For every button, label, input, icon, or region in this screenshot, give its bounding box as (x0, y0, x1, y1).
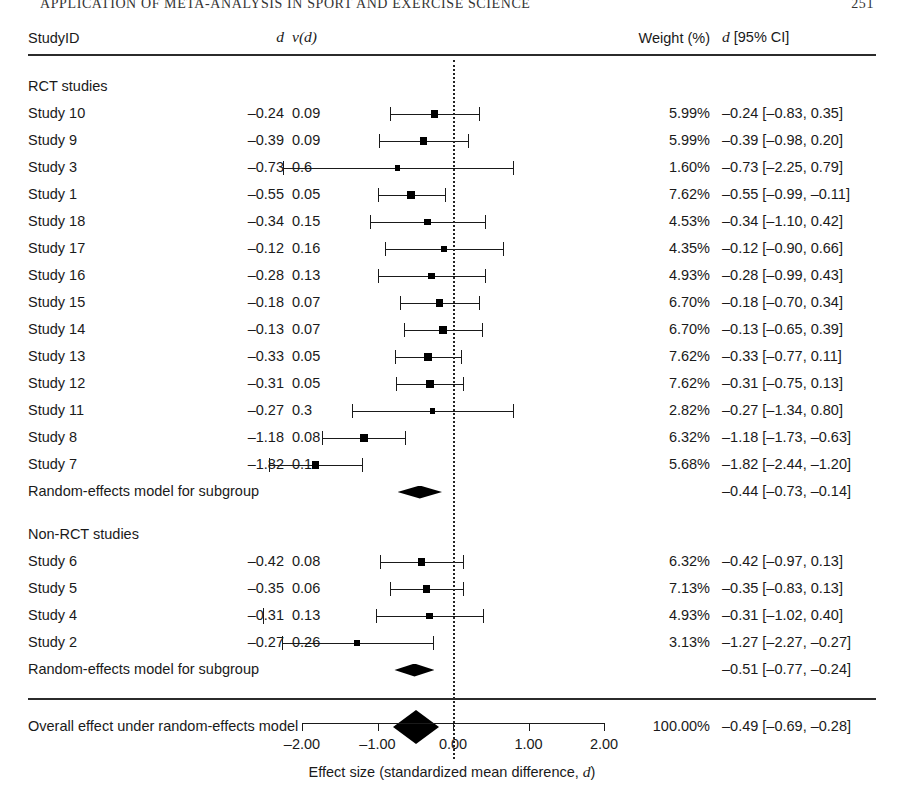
point-estimate-marker (439, 326, 447, 334)
row-weight-value: 4.93% (636, 267, 710, 283)
row-weight-value: 4.35% (636, 240, 710, 256)
row-d-value: –0.33 (230, 348, 284, 364)
ci-cap-right (485, 269, 486, 283)
row-ci-value: –0.42 [–0.97, 0.13] (722, 553, 892, 569)
forest-plot-figure: APPLICATION OF META-ANALYSIS IN SPORT AN… (0, 0, 904, 807)
ci-cap-left (378, 269, 379, 283)
point-estimate-marker (407, 191, 415, 199)
point-estimate-marker (426, 613, 433, 620)
ci-cap-left (400, 296, 401, 310)
ci-cap-left (376, 609, 377, 623)
row-study-label: Study 1 (28, 186, 77, 202)
row-d-value: –0.31 (230, 375, 284, 391)
x-axis-tick (529, 723, 530, 731)
ci-cap-left (379, 134, 380, 148)
subgroup-label-rct: RCT studies (28, 78, 108, 94)
row-study-label: Study 3 (28, 159, 77, 175)
ci-cap-right (503, 242, 504, 256)
row-weight-value: 7.13% (636, 580, 710, 596)
row-ci-value: –0.24 [–0.83, 0.35] (722, 105, 892, 121)
row-vd-value: 0.26 (292, 634, 336, 650)
row-vd-value: 0.15 (292, 213, 336, 229)
summary-diamond (398, 486, 443, 499)
ci-cap-left (395, 350, 396, 364)
row-weight-value: 5.99% (636, 105, 710, 121)
subgroup-summary-ci: –0.44 [–0.73, –0.14] (722, 483, 892, 499)
row-d-value: –0.39 (230, 132, 284, 148)
ci-cap-left (390, 107, 391, 121)
row-d-value: –0.27 (230, 402, 284, 418)
row-ci-value: –1.82 [–2.44, –1.20] (722, 456, 892, 472)
ci-cap-left (404, 323, 405, 337)
point-estimate-marker (441, 246, 447, 252)
ci-cap-right (513, 404, 514, 418)
row-d-value: –1.82 (230, 456, 284, 472)
subgroup-label-nonrct: Non-RCT studies (28, 526, 139, 542)
row-vd-value: 0.09 (292, 105, 336, 121)
point-estimate-marker (354, 640, 360, 646)
row-weight-value: 4.93% (636, 607, 710, 623)
row-d-value: –0.73 (230, 159, 284, 175)
row-study-label: Study 10 (28, 105, 85, 121)
row-weight-value: 3.13% (636, 634, 710, 650)
point-estimate-marker (420, 137, 427, 144)
row-weight-value: 1.60% (636, 159, 710, 175)
row-study-label: Study 5 (28, 580, 77, 596)
ci-cap-right (482, 323, 483, 337)
x-axis-title-symbol: d (583, 763, 591, 780)
x-axis-title-text: Effect size (standardized mean differenc… (309, 764, 583, 780)
row-vd-value: 0.09 (292, 132, 336, 148)
point-estimate-marker (428, 273, 435, 280)
subgroup-summary-ci: –0.51 [–0.77, –0.24] (722, 661, 892, 677)
ci-cap-right (433, 636, 434, 650)
ci-cap-right (479, 107, 480, 121)
null-effect-line (453, 60, 455, 759)
ci-cap-right (362, 458, 363, 472)
row-study-label: Study 4 (28, 607, 77, 623)
ci-cap-left (396, 377, 397, 391)
row-study-label: Study 16 (28, 267, 85, 283)
row-vd-value: 0.05 (292, 186, 336, 202)
row-d-value: –0.13 (230, 321, 284, 337)
row-vd-value: 0.06 (292, 580, 336, 596)
row-ci-value: –0.12 [–0.90, 0.66] (722, 240, 892, 256)
row-vd-value: 0.6 (292, 159, 336, 175)
header-rule (28, 54, 876, 56)
ci-cap-right (485, 215, 486, 229)
row-study-label: Study 13 (28, 348, 85, 364)
row-study-label: Study 17 (28, 240, 85, 256)
point-estimate-marker (395, 165, 400, 170)
row-ci-value: –0.28 [–0.99, 0.43] (722, 267, 892, 283)
row-study-label: Study 6 (28, 553, 77, 569)
row-weight-value: 2.82% (636, 402, 710, 418)
row-d-value: –0.28 (230, 267, 284, 283)
row-weight-value: 6.70% (636, 321, 710, 337)
point-estimate-marker (436, 299, 444, 307)
row-weight-value: 4.53% (636, 213, 710, 229)
ci-cap-right (461, 350, 462, 364)
row-weight-value: 6.70% (636, 294, 710, 310)
row-vd-value: 0.1 (292, 456, 336, 472)
row-study-label: Study 7 (28, 456, 77, 472)
row-vd-value: 0.05 (292, 375, 336, 391)
row-ci-value: –0.33 [–0.77, 0.11] (722, 348, 892, 364)
row-ci-value: –1.18 [–1.73, –0.63] (722, 429, 892, 445)
row-ci-value: –0.73 [–2.25, 0.79] (722, 159, 892, 175)
row-d-value: –0.31 (230, 607, 284, 623)
ci-cap-right (463, 377, 464, 391)
row-study-label: Study 9 (28, 132, 77, 148)
row-ci-value: –0.34 [–1.10, 0.42] (722, 213, 892, 229)
row-study-label: Study 2 (28, 634, 77, 650)
ci-cap-left (390, 582, 391, 596)
ci-cap-right (463, 555, 464, 569)
point-estimate-marker (424, 353, 432, 361)
row-d-value: –0.42 (230, 553, 284, 569)
row-ci-value: –0.31 [–0.75, 0.13] (722, 375, 892, 391)
row-d-value: –0.35 (230, 580, 284, 596)
row-study-label: Study 18 (28, 213, 85, 229)
row-d-value: –0.55 (230, 186, 284, 202)
row-ci-value: –1.27 [–2.27, –0.27] (722, 634, 892, 650)
row-weight-value: 6.32% (636, 553, 710, 569)
row-study-label: Study 11 (28, 402, 84, 418)
overall-rule (28, 698, 876, 700)
